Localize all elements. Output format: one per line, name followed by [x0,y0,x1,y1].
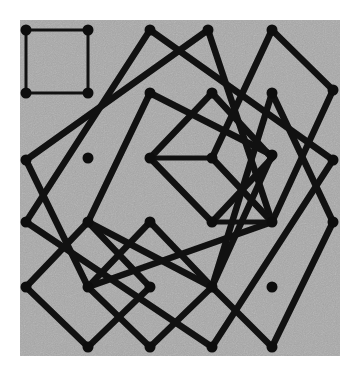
vertex-dot [203,25,214,36]
vertex-dot [145,88,156,99]
vertex-dot [145,342,156,353]
vertex-dot [21,88,32,99]
vertex-dot [83,342,94,353]
vertex-dot [207,88,218,99]
vertex-dot [21,282,32,293]
squares-diagram [0,0,362,375]
vertex-dot [207,217,218,228]
vertex-dot [83,282,94,293]
vertex-dot [328,217,339,228]
vertex-dot [21,155,32,166]
vertex-dot [267,342,278,353]
vertex-dot [21,217,32,228]
vertex-dot [267,25,278,36]
vertex-dot [83,153,94,164]
vertex-dot [21,25,32,36]
vertex-dot [145,153,156,164]
vertex-dot [145,25,156,36]
figure-container [0,0,362,375]
vertex-dot [83,217,94,228]
vertex-dot [267,282,278,293]
vertex-dot [145,217,156,228]
vertex-dot [267,88,278,99]
vertex-dot [83,88,94,99]
vertex-dot [207,282,218,293]
vertex-dot [145,282,156,293]
vertex-dot [267,150,278,161]
vertex-dot [83,25,94,36]
vertex-dot [328,155,339,166]
vertex-dot [207,342,218,353]
vertex-dot [267,217,278,228]
vertex-dot [207,153,218,164]
vertex-dot [328,85,339,96]
